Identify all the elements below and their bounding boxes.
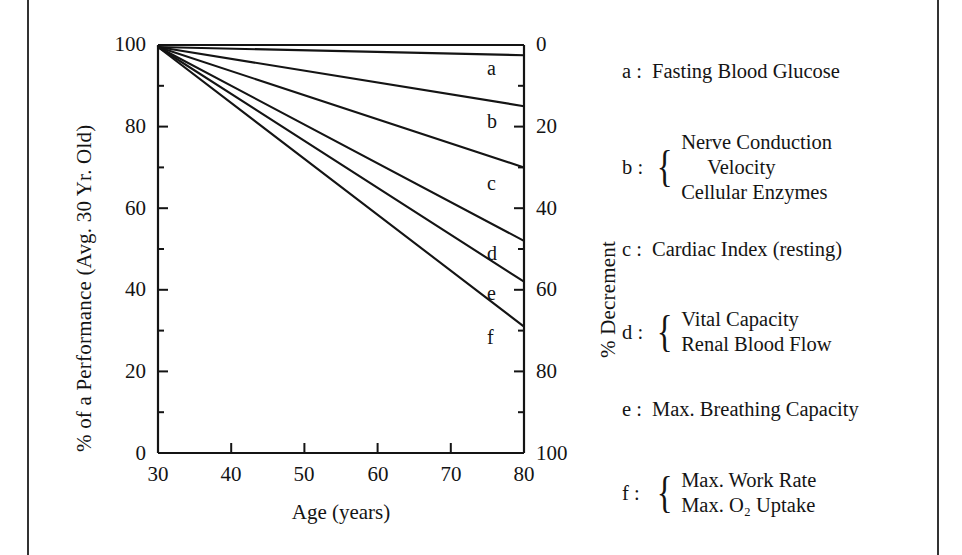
line-a (158, 47, 524, 55)
legend-text-e: Max. Breathing Capacity (652, 398, 859, 421)
curve-label-d: d (487, 242, 497, 265)
legend-entry-a: a : Fasting Blood Glucose (622, 60, 840, 83)
curve-label-c: c (487, 172, 496, 195)
legend-brace-d: { (657, 314, 673, 350)
line-f (158, 47, 524, 327)
line-e (158, 47, 524, 282)
legend-text-b: Nerve Conduction Velocity Cellular Enzym… (681, 130, 832, 205)
legend-entry-b: b : { Nerve Conduction Velocity Cellular… (622, 130, 832, 205)
figure-root: 0 20 40 60 80 100 0 20 40 60 80 100 30 4… (0, 0, 962, 555)
line-c (158, 47, 524, 167)
curve-label-a: a (487, 57, 496, 80)
figure-right-rule (937, 0, 939, 555)
legend-text-b-line3: Cellular Enzymes (681, 180, 832, 205)
legend-key-a: a : (622, 60, 652, 83)
legend-key-f: f : (622, 482, 652, 505)
legend-text-b-line1: Nerve Conduction (681, 130, 832, 155)
x-label-60: 60 (348, 462, 408, 487)
y-left-ticks (158, 45, 168, 453)
legend-entry-c: c : Cardiac Index (resting) (622, 238, 842, 261)
curve-label-f: f (487, 326, 494, 349)
legend-key-d: d : (622, 321, 652, 344)
legend-key-c: c : (622, 238, 652, 261)
y-left-label-100: 100 (78, 32, 146, 57)
x-label-40: 40 (201, 462, 261, 487)
x-label-50: 50 (274, 462, 334, 487)
legend-entry-e: e : Max. Breathing Capacity (622, 398, 859, 421)
legend-key-e: e : (622, 398, 652, 421)
legend-entry-d: d : { Vital Capacity Renal Blood Flow (622, 307, 831, 357)
y-right-label-20: 20 (536, 114, 594, 139)
legend-text-d: Vital Capacity Renal Blood Flow (681, 307, 831, 357)
x-axis-title: Age (years) (158, 500, 524, 525)
legend-text-d-line1: Vital Capacity (681, 307, 831, 332)
legend-text-a: Fasting Blood Glucose (652, 60, 840, 83)
legend-brace-b: { (657, 149, 673, 185)
x-ticks (158, 443, 524, 453)
y-right-label-60: 60 (536, 277, 594, 302)
x-label-30: 30 (128, 462, 188, 487)
legend-text-d-line2: Renal Blood Flow (681, 332, 831, 357)
y-right-label-0: 0 (536, 32, 594, 57)
plot-area: 0 20 40 60 80 100 0 20 40 60 80 100 30 4… (0, 0, 600, 555)
data-lines (158, 47, 524, 327)
legend-entry-f: f : { Max. Work Rate Max. O₂ Uptake (622, 468, 816, 518)
legend-text-b-line2: Velocity (681, 155, 832, 180)
legend: a : Fasting Blood Glucose b : { Nerve Co… (622, 38, 932, 528)
y-axis-right-title: % Decrement (596, 241, 621, 358)
legend-key-b: b : (622, 156, 652, 179)
curve-label-e: e (487, 282, 496, 305)
curve-label-b: b (487, 110, 497, 133)
legend-text-c: Cardiac Index (resting) (652, 238, 842, 261)
x-label-70: 70 (421, 462, 481, 487)
y-axis-left-title: % of a Performance (Avg. 30 Yr. Old) (72, 125, 97, 452)
legend-text-f: Max. Work Rate Max. O₂ Uptake (681, 468, 816, 518)
legend-text-f-line2: Max. O₂ Uptake (681, 493, 816, 518)
y-right-label-40: 40 (536, 196, 594, 221)
y-right-label-80: 80 (536, 359, 594, 384)
legend-text-f-line1: Max. Work Rate (681, 468, 816, 493)
x-label-80: 80 (494, 462, 554, 487)
legend-brace-f: { (657, 475, 673, 511)
